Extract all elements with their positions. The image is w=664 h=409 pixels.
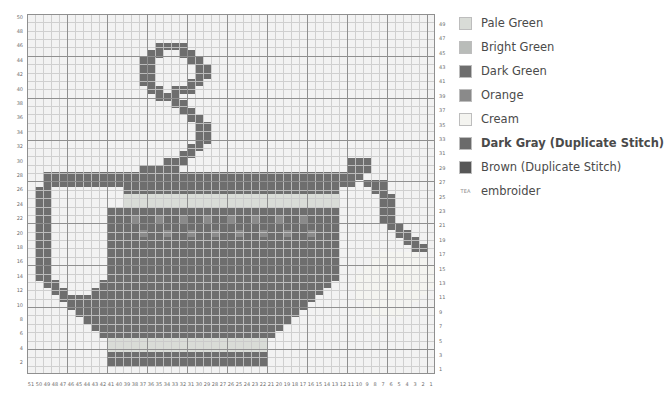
legend-item[interactable]: Dark Green: [459, 59, 635, 83]
stitch-grid[interactable]: [27, 14, 435, 374]
row-number-left: 4: [7, 346, 23, 351]
row-number-right: 19: [439, 238, 455, 243]
stitch-cell: [395, 309, 403, 317]
row-number-left: 30: [7, 159, 23, 164]
row-number-left: 40: [7, 87, 23, 92]
row-number-left: 26: [7, 187, 23, 192]
stitch-cell: [307, 295, 315, 303]
row-number-right: 17: [439, 252, 455, 257]
stitch-cell: [179, 158, 187, 166]
legend-label: Brown (Duplicate Stitch): [481, 160, 621, 174]
legend-item[interactable]: Brown (Duplicate Stitch): [459, 155, 635, 179]
row-number-right: 5: [439, 339, 455, 344]
row-number-left: 12: [7, 288, 23, 293]
row-number-right: 41: [439, 79, 455, 84]
legend-label: Dark Gray (Duplicate Stitch): [481, 136, 664, 150]
row-number-left: 38: [7, 101, 23, 106]
row-number-right: 7: [439, 324, 455, 329]
legend-label: embroider: [481, 184, 540, 198]
legend-label: Orange: [481, 88, 524, 102]
row-number-right: 45: [439, 51, 455, 56]
row-number-right: 31: [439, 151, 455, 156]
row-number-right: 47: [439, 36, 455, 41]
row-number-left: 28: [7, 173, 23, 178]
legend-item[interactable]: Bright Green: [459, 35, 635, 59]
legend-swatch: [459, 113, 472, 126]
stitch-cell: [299, 302, 307, 310]
row-number-left: 32: [7, 144, 23, 149]
row-number-left: 18: [7, 245, 23, 250]
legend-item[interactable]: Cream: [459, 107, 635, 131]
row-number-left: 50: [7, 15, 23, 20]
row-number-left: 8: [7, 317, 23, 322]
stitch-cell: [411, 295, 419, 303]
stitch-cell: [403, 302, 411, 310]
stitch-cell: [419, 244, 427, 252]
stitch-cell: [259, 360, 267, 368]
stitch-cell: [283, 316, 291, 324]
row-number-right: 13: [439, 281, 455, 286]
row-number-left: 22: [7, 216, 23, 221]
row-number-left: 24: [7, 202, 23, 207]
stitch-cell: [323, 280, 331, 288]
row-number-right: 35: [439, 123, 455, 128]
stitch-cell: [315, 288, 323, 296]
stitch-cell: [195, 144, 203, 152]
row-number-right: 39: [439, 94, 455, 99]
row-number-left: 6: [7, 331, 23, 336]
row-number-left: 20: [7, 231, 23, 236]
row-number-right: 15: [439, 267, 455, 272]
stitch-cell: [275, 324, 283, 332]
stitch-cell: [331, 273, 339, 281]
legend-item[interactable]: Orange: [459, 83, 635, 107]
stitch-cell: [187, 86, 195, 94]
row-number-left: 16: [7, 259, 23, 264]
legend-item[interactable]: Dark Gray (Duplicate Stitch): [459, 131, 635, 155]
row-number-left: 2: [7, 360, 23, 365]
row-number-right: 3: [439, 353, 455, 358]
row-number-right: 27: [439, 180, 455, 185]
row-number-right: 11: [439, 295, 455, 300]
row-number-right: 49: [439, 22, 455, 27]
legend-label: Dark Green: [481, 64, 547, 78]
row-number-left: 34: [7, 130, 23, 135]
stitch-cells: [27, 14, 435, 374]
legend-item[interactable]: TEAembroider: [459, 179, 635, 203]
row-number-right: 29: [439, 166, 455, 171]
row-number-left: 10: [7, 303, 23, 308]
cross-stitch-chart: 5048464442403836343230282624222018161412…: [0, 0, 452, 409]
column-number: 1: [426, 382, 436, 387]
row-number-left: 36: [7, 115, 23, 120]
stitch-cell: [195, 79, 203, 87]
legend-swatch: [459, 89, 472, 102]
row-number-left: 44: [7, 58, 23, 63]
stitch-cell: [155, 50, 163, 58]
row-number-right: 21: [439, 223, 455, 228]
row-number-right: 33: [439, 137, 455, 142]
stitch-cell: [203, 136, 211, 144]
legend-swatch: [459, 137, 472, 150]
stitch-cell: [419, 288, 427, 296]
row-number-right: 37: [439, 108, 455, 113]
legend-item[interactable]: Pale Green: [459, 11, 635, 35]
legend-label: Bright Green: [481, 40, 554, 54]
stitch-cell: [347, 180, 355, 188]
row-number-left: 48: [7, 29, 23, 34]
legend-swatch: [459, 65, 472, 78]
row-number-right: 25: [439, 195, 455, 200]
stitch-cell: [187, 151, 195, 159]
legend-swatch: [459, 17, 472, 30]
row-number-right: 43: [439, 65, 455, 70]
stitch-cell: [291, 309, 299, 317]
row-number-left: 42: [7, 72, 23, 77]
color-legend: Pale GreenBright GreenDark GreenOrangeCr…: [459, 11, 635, 203]
stitch-cell: [427, 280, 435, 288]
legend-swatch: [459, 41, 472, 54]
tea-symbol-icon: TEA: [459, 185, 472, 198]
stitch-cell: [363, 165, 371, 173]
stitch-cell: [203, 72, 211, 80]
row-number-right: 1: [439, 367, 455, 372]
row-number-left: 14: [7, 274, 23, 279]
legend-swatch: [459, 161, 472, 174]
